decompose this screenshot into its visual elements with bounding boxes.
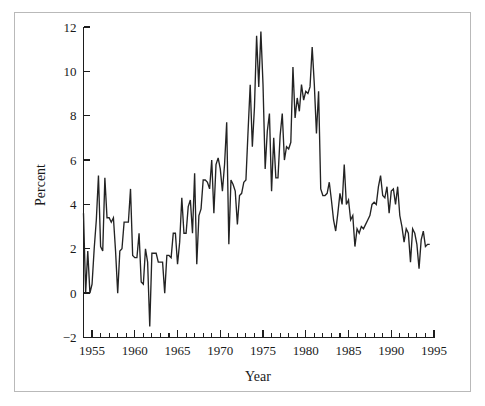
percent-series-line [84,31,430,326]
y-axis-ticks [84,27,90,338]
figure-container: 121086420−2 1955196019651970197519801985… [0,0,485,406]
x-tick-label: 1985 [336,343,362,358]
x-tick-label: 1970 [207,343,233,358]
y-tick-label: 0 [70,286,77,301]
line-chart: 121086420−2 1955196019651970197519801985… [0,0,485,406]
y-tick-label: 8 [70,108,77,123]
x-tick-label: 1960 [122,343,148,358]
y-tick-label: 10 [64,64,77,79]
x-tick-label: 1975 [250,343,276,358]
y-tick-label: 2 [70,241,77,256]
x-axis-title: Year [245,369,271,384]
x-axis-minor-ticks [84,333,435,338]
x-tick-label: 1980 [293,343,319,358]
y-axis-tick-labels: 121086420−2 [63,20,77,346]
y-tick-label: 4 [70,197,77,212]
x-tick-label: 1995 [421,343,447,358]
x-tick-label: 1955 [79,343,105,358]
y-tick-label: −2 [63,330,77,345]
x-tick-label: 1965 [165,343,191,358]
x-tick-label: 1990 [378,343,404,358]
x-axis-tick-labels: 195519601965197019751980198519901995 [79,343,447,358]
y-tick-label: 6 [70,153,77,168]
y-tick-label: 12 [64,20,77,35]
y-axis-title: Percent [33,164,48,206]
